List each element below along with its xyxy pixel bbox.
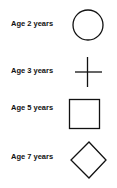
diamond-icon	[71, 142, 106, 178]
circle-icon	[73, 10, 103, 40]
plus-icon	[75, 57, 102, 87]
square-icon	[70, 100, 100, 129]
legend-symbols	[0, 0, 117, 188]
